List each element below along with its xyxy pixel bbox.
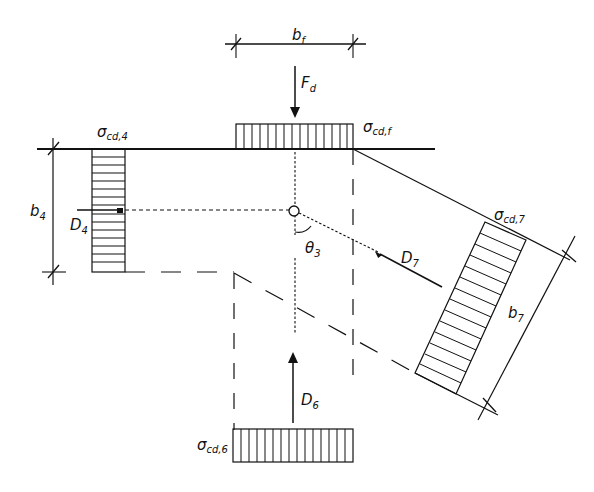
label-sigma-cd-6: σcd,6 <box>197 436 228 455</box>
strut-node-diagram: bf Fd σcd,f σcd,4 b4 D4 θ3 D7 σcd,7 b7 D… <box>0 0 594 492</box>
node-point <box>289 206 299 216</box>
force-arrow-fd <box>290 66 300 118</box>
stress-block-cd-6 <box>233 429 353 462</box>
stress-block-cd-f <box>236 124 353 149</box>
boundary-diagonal-top <box>353 149 570 260</box>
label-theta3: θ3 <box>305 239 321 259</box>
label-fd: Fd <box>301 74 317 94</box>
force-line-d4 <box>77 208 290 213</box>
angle-arc-theta3 <box>295 226 311 232</box>
label-d6: D6 <box>301 391 319 411</box>
label-bf: bf <box>292 26 307 46</box>
label-d7: D7 <box>401 249 420 269</box>
label-b7: b7 <box>508 304 525 324</box>
label-sigma-cd-4: σcd,4 <box>97 123 128 142</box>
label-sigma-cd-f: σcd,f <box>363 118 393 137</box>
label-sigma-cd-7: σcd,7 <box>494 206 526 225</box>
force-arrow-d6 <box>288 352 298 423</box>
label-d4: D4 <box>70 216 88 236</box>
boundary-lower-dashed <box>125 272 415 430</box>
label-b4: b4 <box>30 202 46 222</box>
